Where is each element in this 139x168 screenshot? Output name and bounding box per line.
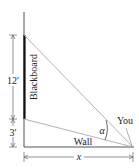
label-angle: α <box>99 125 105 136</box>
label-viewer: You <box>117 115 133 126</box>
label-distance: x <box>76 151 82 162</box>
label-base-height: 3′ <box>9 127 16 138</box>
label-wall: Wall <box>74 136 93 147</box>
blackboard-angle-diagram: 12′ 3′ Blackboard Wall You α x <box>0 0 139 168</box>
label-blackboard: Blackboard <box>28 54 39 100</box>
label-board-height: 12′ <box>7 75 19 86</box>
angle-arc <box>105 120 107 140</box>
sight-line-top <box>24 35 133 147</box>
